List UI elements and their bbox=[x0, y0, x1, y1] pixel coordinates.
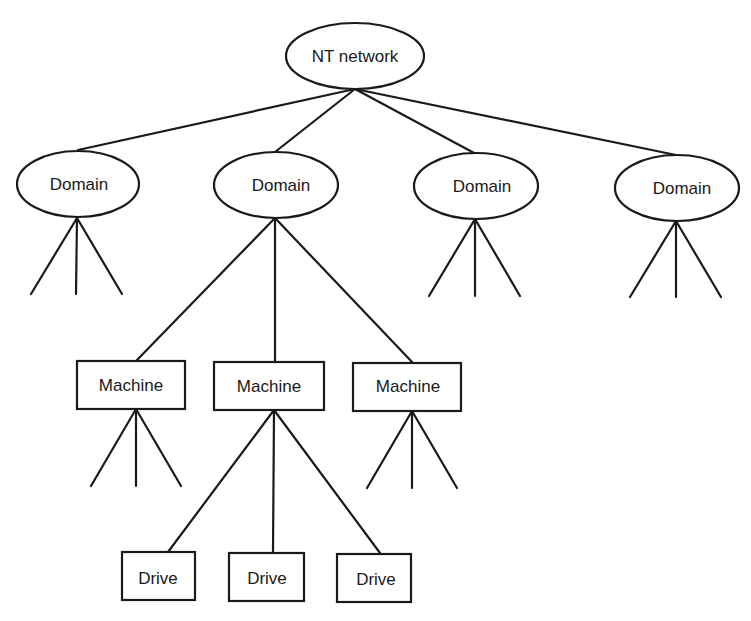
domain-label: Domain bbox=[453, 177, 512, 196]
domain-node-4: Domain bbox=[615, 155, 739, 221]
machine-node-2: Machine bbox=[214, 362, 324, 410]
machine-node-1: Machine bbox=[77, 361, 185, 409]
root-node-nt-network: NT network bbox=[286, 23, 424, 89]
machine-node-3: Machine bbox=[353, 363, 461, 411]
domain-node-3: Domain bbox=[414, 153, 538, 219]
drive-node-1: Drive bbox=[122, 552, 195, 600]
drive-node-2: Drive bbox=[229, 553, 304, 601]
root-label: NT network bbox=[312, 47, 399, 66]
drive-label: Drive bbox=[247, 569, 287, 588]
connector-lines bbox=[31, 89, 721, 553]
domain-label: Domain bbox=[252, 176, 311, 195]
domain-node-2: Domain bbox=[214, 152, 338, 218]
drive-label: Drive bbox=[356, 570, 396, 589]
machine-label: Machine bbox=[237, 377, 301, 396]
machine-label: Machine bbox=[376, 377, 440, 396]
domain-label: Domain bbox=[653, 179, 712, 198]
diagram-svg: NT network Domain Domain Domain Domain M… bbox=[0, 0, 751, 621]
drive-label: Drive bbox=[138, 569, 178, 588]
drive-node-3: Drive bbox=[337, 554, 411, 602]
nt-network-hierarchy-diagram: NT network Domain Domain Domain Domain M… bbox=[0, 0, 751, 621]
machine-label: Machine bbox=[99, 376, 163, 395]
domain-node-1: Domain bbox=[17, 151, 139, 217]
domain-label: Domain bbox=[50, 175, 109, 194]
